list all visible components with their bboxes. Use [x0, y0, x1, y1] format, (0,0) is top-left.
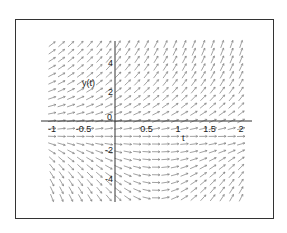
slope-arrow: [239, 187, 243, 194]
slope-arrow: [106, 187, 112, 193]
slope-arrow: [135, 41, 139, 48]
slope-arrow: [181, 103, 187, 108]
slope-arrow: [192, 72, 196, 79]
slope-arrow: [181, 111, 188, 115]
slope-arrow: [171, 111, 178, 115]
slope-arrow: [125, 72, 130, 78]
slope-arrow: [191, 95, 197, 101]
slope-arrow: [238, 164, 244, 170]
slope-arrow: [172, 95, 178, 100]
slope-arrow: [182, 79, 187, 85]
slope-arrow: [115, 180, 122, 185]
slope-arrow: [239, 179, 243, 186]
slope-arrow: [58, 65, 65, 69]
slope-arrow: [87, 72, 93, 77]
slope-arrow: [77, 157, 84, 162]
slope-arrow: [115, 88, 121, 93]
slope-arrow: [86, 88, 93, 92]
slope-arrow: [77, 88, 84, 92]
slope-arrow: [96, 80, 102, 85]
slope-arrow: [200, 165, 207, 169]
slope-arrow: [125, 49, 129, 56]
slope-arrow: [68, 157, 74, 162]
slope-arrow: [211, 71, 215, 78]
slope-arrow: [201, 79, 206, 86]
slope-arrow: [68, 164, 74, 170]
slope-arrow: [154, 56, 158, 63]
slope-arrow: [200, 180, 206, 185]
slope-arrow: [153, 103, 160, 107]
slope-arrow: [68, 57, 74, 62]
slope-arrow: [87, 41, 92, 47]
slope-arrow: [68, 41, 74, 47]
slope-arrow: [163, 80, 168, 86]
slope-arrow: [134, 80, 140, 86]
slope-arrow: [153, 80, 158, 86]
y-tick-label: -4: [105, 174, 113, 184]
slope-arrow: [145, 48, 149, 55]
slope-arrow: [58, 150, 65, 154]
slope-arrow: [126, 41, 130, 48]
slope-arrow: [68, 49, 74, 54]
slope-arrow: [239, 87, 243, 94]
slope-arrow: [210, 180, 216, 186]
slope-arrow: [87, 49, 92, 55]
slope-arrow: [69, 179, 73, 186]
slope-arrow: [210, 95, 216, 101]
y-tick-label: 2: [108, 87, 113, 97]
slope-arrow: [172, 79, 177, 85]
slope-arrow: [49, 57, 56, 61]
slope-arrow: [97, 187, 102, 193]
slope-arrow: [68, 73, 75, 77]
slope-arrow: [97, 195, 102, 202]
slope-arrow: [228, 157, 235, 162]
slope-arrow: [49, 42, 55, 47]
slope-arrow: [219, 172, 225, 178]
slope-arrow: [59, 172, 64, 179]
slope-arrow: [163, 87, 169, 93]
slope-arrow: [87, 172, 93, 178]
slope-arrow: [229, 87, 234, 94]
x-axis-label: t: [182, 133, 185, 143]
direction-field-plot: -1-0.50.511.52 -4-224 t y(t) 0: [16, 20, 275, 220]
slope-arrow: [58, 73, 65, 77]
x-tick-label: 1.5: [203, 124, 216, 134]
slope-arrow: [163, 72, 168, 79]
slope-arrow: [49, 50, 56, 55]
origin-label: 0: [107, 112, 112, 122]
slope-arrow: [191, 103, 197, 108]
slope-arrow: [200, 95, 206, 101]
slope-arrow: [173, 72, 178, 79]
slope-arrow: [191, 87, 196, 93]
slope-arrow: [219, 103, 225, 108]
slope-arrow: [68, 172, 73, 178]
slope-arrow: [97, 180, 103, 186]
slope-arrow: [210, 103, 216, 108]
slope-arrow: [210, 195, 215, 201]
slope-arrow: [200, 187, 206, 193]
slope-arrow: [190, 180, 197, 184]
slope-arrow: [134, 104, 141, 108]
slope-arrow: [145, 41, 149, 48]
slope-arrow: [230, 79, 234, 86]
slope-arrow: [220, 187, 225, 193]
slope-arrow: [78, 172, 83, 178]
slope-arrow: [78, 187, 82, 194]
slope-arrow: [125, 64, 130, 70]
slope-arrow: [124, 196, 131, 201]
slope-arrow: [173, 64, 177, 71]
slope-arrow: [88, 195, 92, 202]
y-tick-label: -2: [105, 145, 113, 155]
slope-arrow: [153, 88, 159, 94]
slope-arrow: [211, 79, 215, 86]
slope-arrow: [229, 103, 235, 109]
plot-frame: -1-0.50.511.52 -4-224 t y(t) 0: [15, 19, 274, 219]
x-tick-label: 1: [175, 124, 180, 134]
x-tick-label: 2: [238, 124, 243, 134]
slope-arrow: [49, 65, 56, 69]
slope-arrow: [172, 87, 177, 93]
slope-arrow: [115, 80, 121, 85]
slope-arrow: [67, 81, 74, 85]
slope-arrow: [163, 56, 167, 63]
slope-arrow: [133, 144, 141, 145]
